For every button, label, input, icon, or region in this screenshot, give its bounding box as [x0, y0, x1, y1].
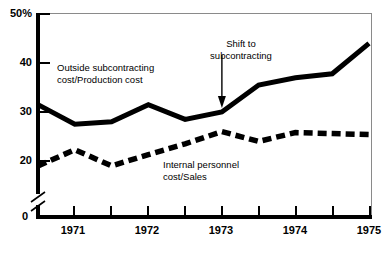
- x-axis-label-1974: 1974: [272, 224, 318, 236]
- x-tick-1972-5: [184, 206, 186, 215]
- y-axis-label-20: 20: [0, 154, 32, 166]
- axis-break-marks: [28, 190, 52, 218]
- x-tick-1975: [369, 206, 371, 215]
- y-axis-label-40: 40: [0, 56, 32, 68]
- annotation-internal-line-2: cost/Sales: [163, 171, 278, 183]
- x-axis-label-1973: 1973: [198, 224, 244, 236]
- x-tick-1971-5: [110, 206, 112, 215]
- annotation-outside-line-2: cost/Production cost: [57, 74, 192, 86]
- x-tick-1974: [295, 206, 297, 215]
- annotation-shift-line-2: subcontracting: [186, 50, 296, 62]
- x-axis: [36, 215, 372, 219]
- x-axis-label-1971: 1971: [50, 224, 96, 236]
- x-tick-1973: [221, 206, 223, 215]
- y-tick-40: [40, 62, 50, 64]
- chart-container: 50% 40 30 20 0 1971 1972 1973 1974 1975 …: [0, 0, 392, 254]
- x-tick-1972: [147, 206, 149, 215]
- annotation-internal-line-1: Internal personnel: [163, 159, 278, 171]
- x-axis-label-1972: 1972: [124, 224, 170, 236]
- annotation-outside-subcontracting: Outside subcontracting cost/Production c…: [57, 62, 192, 86]
- y-tick-50: [40, 13, 50, 15]
- annotation-shift-line-1: Shift to: [186, 38, 296, 50]
- annotation-shift-to-subcontracting: Shift to subcontracting: [186, 38, 296, 62]
- y-axis-label-30: 30: [0, 105, 32, 117]
- x-tick-1974-5: [332, 206, 334, 215]
- y-tick-20: [40, 160, 50, 162]
- annotation-internal-personnel: Internal personnel cost/Sales: [163, 159, 278, 183]
- y-tick-30: [40, 111, 50, 113]
- y-axis-label-50: 50%: [0, 7, 32, 19]
- x-tick-1973-5: [258, 206, 260, 215]
- y-axis-upper-segment: [36, 13, 40, 194]
- y-axis-label-0: 0: [0, 210, 28, 222]
- x-axis-label-1975: 1975: [346, 224, 392, 236]
- annotation-outside-line-1: Outside subcontracting: [57, 62, 192, 74]
- x-tick-1971: [73, 206, 75, 215]
